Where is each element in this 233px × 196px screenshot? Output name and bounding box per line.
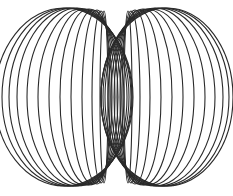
right-coil-loop: [114, 9, 172, 185]
slinky-torus-figure: [0, 0, 233, 196]
left-coil-group: [0, 8, 133, 186]
left-coil-loop: [60, 9, 118, 185]
coil-drawing: [0, 0, 233, 196]
